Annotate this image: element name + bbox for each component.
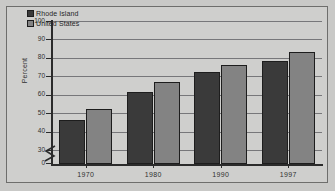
y-tick-label: 50 — [27, 110, 45, 116]
x-tick-label: 1980 — [133, 171, 173, 178]
y-tick-label: 80 — [27, 54, 45, 60]
y-tick — [46, 76, 52, 77]
y-tick — [46, 39, 52, 40]
x-tick-label: 1990 — [201, 171, 241, 178]
y-tick-label-wrap: 50 — [23, 110, 45, 118]
x-tick — [153, 164, 154, 168]
gridline — [52, 21, 322, 22]
x-tick-label: 1997 — [268, 171, 308, 178]
x-axis-line — [51, 164, 323, 166]
axis-break-icon — [43, 143, 59, 163]
bar-rhode-island-1990 — [194, 72, 220, 164]
y-tick-label: 60 — [27, 91, 45, 97]
bar-rhode-island-1980 — [127, 92, 153, 164]
bar-united-states-1997 — [289, 52, 315, 164]
y-tick — [46, 95, 52, 96]
x-tick-label: 1970 — [66, 171, 106, 178]
legend-swatch-rhode-island — [27, 10, 34, 17]
y-tick-label-wrap: 30 — [23, 147, 45, 155]
plot-area — [52, 21, 322, 164]
x-tick — [86, 164, 87, 168]
gridline — [52, 58, 322, 59]
chart-figure: 100908070605040300 1970198019901997 Perc… — [0, 0, 335, 191]
caption-fragment — [8, 0, 128, 5]
bar-united-states-1980 — [154, 82, 180, 164]
legend-swatch-united-states — [27, 20, 34, 27]
gridline — [52, 39, 322, 40]
legend-item-united-states: United States — [27, 19, 79, 28]
y-tick-label: 70 — [27, 73, 45, 79]
y-tick — [46, 113, 52, 114]
y-axis-title: Percent — [21, 41, 28, 101]
legend-item-rhode-island: Rhode Island — [27, 9, 79, 18]
y-tick-label-wrap: 0 — [23, 160, 45, 168]
legend-label-rhode-island: Rhode Island — [36, 10, 78, 18]
y-tick — [46, 163, 52, 164]
bar-united-states-1990 — [221, 65, 247, 164]
legend-label-united-states: United States — [36, 20, 79, 28]
bar-rhode-island-1970 — [59, 120, 85, 164]
figure-frame: 100908070605040300 1970198019901997 Perc… — [6, 6, 328, 183]
chart-legend: Rhode Island United States — [25, 8, 82, 30]
bar-rhode-island-1997 — [262, 61, 288, 164]
y-tick-label: 90 — [27, 36, 45, 42]
y-tick — [46, 58, 52, 59]
y-tick — [46, 132, 52, 133]
bar-united-states-1970 — [86, 109, 112, 164]
x-tick — [288, 164, 289, 168]
y-tick-label-wrap: 40 — [23, 128, 45, 136]
y-tick-label: 40 — [27, 128, 45, 134]
x-tick — [221, 164, 222, 168]
